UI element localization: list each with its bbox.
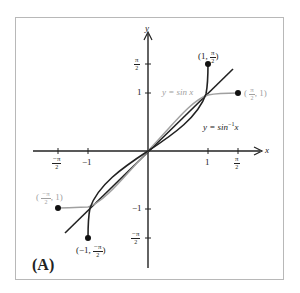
- graph-canvas: [0, 0, 300, 293]
- label-arcsin-bottom: (−1, −π2): [76, 244, 106, 258]
- sin-curve-label: y = sin x: [162, 88, 193, 97]
- y-tick-pi-half: π2: [134, 57, 140, 71]
- label-arcsin-top: (1, π2): [198, 50, 219, 64]
- x-tick-1: 1: [205, 158, 210, 167]
- y-tick-neg-pi-half: −π2: [131, 231, 140, 245]
- x-tick-pi-half: π2: [234, 156, 240, 170]
- y-tick-neg-1: −1: [132, 204, 142, 213]
- point-arcsin-bottom: [85, 235, 91, 241]
- point-sin-left: [55, 205, 61, 211]
- label-sin-left: ( −π2, 1): [36, 191, 63, 205]
- y-axis-label: y: [145, 24, 149, 33]
- label-sin-right: ( π2, 1): [244, 87, 267, 101]
- x-axis-label: x: [265, 146, 269, 155]
- panel-label: (A): [32, 256, 54, 274]
- point-sin-right: [235, 90, 241, 96]
- x-tick-neg-1: −1: [82, 158, 92, 167]
- arcsin-curve-label: y = sin−1x: [203, 121, 238, 132]
- y-tick-1: 1: [137, 88, 142, 97]
- x-tick-neg-pi-half: −π2: [52, 156, 61, 170]
